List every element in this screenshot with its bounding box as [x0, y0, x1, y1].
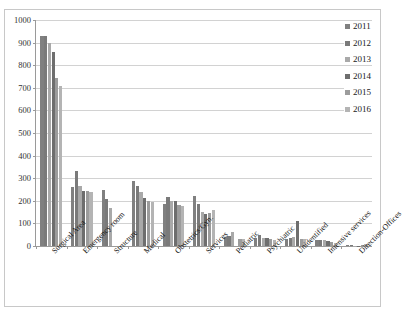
chart-plot-wrapper: 01002003004005006007008009001000 Surgica…	[5, 10, 380, 306]
bar	[59, 86, 62, 246]
bar	[231, 232, 234, 246]
bar-group	[311, 20, 342, 246]
x-axis-label-cell: Pediatric	[219, 247, 250, 309]
x-axis-label-cell: Obstetrics/Gyn.	[158, 247, 189, 309]
y-axis-tick-label: 300	[18, 173, 31, 183]
plot-area: 01002003004005006007008009001000	[35, 20, 372, 247]
x-axis-label-cell: Psychiatric	[249, 247, 280, 309]
x-axis-label-cell: Intensive services	[311, 247, 342, 309]
legend-item: 2012	[344, 39, 372, 48]
bar-groups	[36, 20, 372, 246]
legend-swatch-icon	[345, 24, 350, 29]
y-axis-tick-label: 400	[18, 151, 31, 161]
legend-item: 2013	[344, 55, 372, 64]
legend-item: 2014	[344, 72, 372, 81]
legend-label: 2016	[353, 105, 371, 114]
legend-swatch-icon	[345, 107, 350, 112]
legend-swatch-icon	[345, 90, 350, 95]
legend-swatch-icon	[345, 41, 350, 46]
y-axis-tick-label: 500	[18, 128, 31, 138]
y-axis-tick-label: 700	[18, 83, 31, 93]
y-axis-tick-label: 0	[27, 241, 31, 251]
chart-frame: 01002003004005006007008009001000 Surgica…	[4, 9, 381, 307]
x-axis-labels: Surgical AreaEmergency roomStructureMedi…	[35, 247, 372, 309]
y-axis-tick-label: 200	[18, 196, 31, 206]
bar-group	[189, 20, 220, 246]
bar-group	[280, 20, 311, 246]
y-axis-tick-label: 100	[18, 218, 31, 228]
bar-group	[158, 20, 189, 246]
bar-group	[36, 20, 67, 246]
x-axis-label-cell: Services	[188, 247, 219, 309]
bar-group	[250, 20, 281, 246]
legend-item: 2016	[344, 105, 372, 114]
x-axis-label-cell: Emergency room	[66, 247, 97, 309]
x-axis-label-cell: Surgical Area	[35, 247, 66, 309]
legend-label: 2011	[353, 22, 371, 31]
legend-label: 2012	[353, 39, 371, 48]
x-axis-label-cell: Structure	[96, 247, 127, 309]
x-axis-label-cell: Direction-Offices	[341, 247, 372, 309]
legend-item: 2015	[344, 88, 372, 97]
y-axis-tick-label: 1000	[14, 15, 31, 25]
legend-swatch-icon	[345, 74, 350, 79]
y-axis-tick-label: 800	[18, 60, 31, 70]
bar-group	[128, 20, 159, 246]
y-axis-tick-label: 900	[18, 38, 31, 48]
legend-label: 2014	[353, 72, 371, 81]
legend-swatch-icon	[345, 57, 350, 62]
y-axis-tick-label: 600	[18, 105, 31, 115]
legend-item: 2011	[344, 22, 372, 31]
legend-label: 2013	[353, 55, 371, 64]
bar-group	[219, 20, 250, 246]
x-axis-label-cell: Medical	[127, 247, 158, 309]
chart-legend: 201120122013201420152016	[344, 22, 372, 114]
bar-group	[67, 20, 98, 246]
x-axis-label-cell: Unidentified	[280, 247, 311, 309]
legend-label: 2015	[353, 88, 371, 97]
